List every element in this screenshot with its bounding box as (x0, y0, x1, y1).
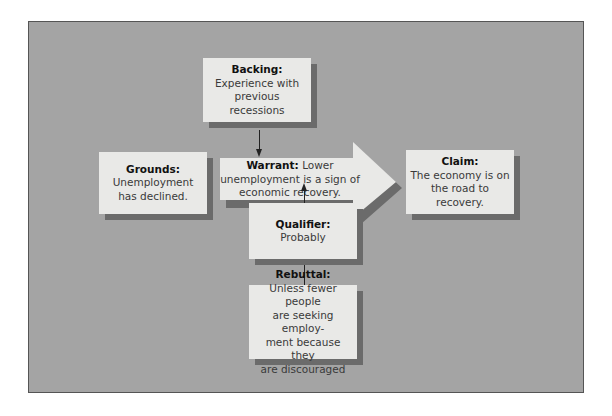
grounds-box: Grounds: Unemployment has declined. (99, 152, 207, 214)
warrant-label: Warrant: Lower unemployment is a sign of… (220, 159, 360, 200)
qualifier-title: Qualifier: (276, 218, 331, 232)
qualifier-box: Qualifier: Probably (249, 203, 357, 259)
claim-title: Claim: (441, 155, 478, 169)
backing-box: Backing: Experience with previous recess… (203, 58, 311, 122)
warrant-title: Warrant: (246, 159, 298, 171)
grounds-body: Unemployment has declined. (113, 176, 194, 203)
claim-body: The economy is on the road to recovery. (410, 169, 510, 210)
up-arrow-icon (301, 183, 307, 191)
backing-body: Experience with previous recessions (207, 77, 307, 118)
rebuttal-box: Rebuttal: Unless fewer people are seekin… (249, 285, 357, 359)
claim-box: Claim: The economy is on the road to rec… (406, 150, 514, 214)
qualifier-body: Probably (280, 231, 326, 245)
grounds-title: Grounds: (126, 163, 180, 177)
rebuttal-body: Unless fewer people are seeking employ- … (253, 282, 353, 377)
qualifier-connector (304, 190, 305, 203)
backing-title: Backing: (231, 63, 282, 77)
rebuttal-title: Rebuttal: (275, 268, 330, 282)
